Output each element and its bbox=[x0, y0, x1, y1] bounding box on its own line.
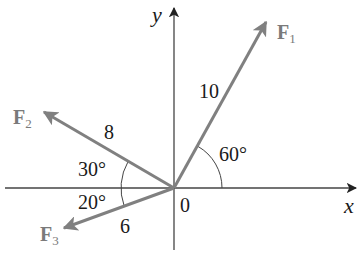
force-diagram: x y 0 F1 F2 F3 10 8 6 60° 30° 20° bbox=[0, 0, 363, 253]
axes: x y 0 bbox=[5, 2, 356, 250]
f3-label: F3 bbox=[40, 223, 59, 248]
force-labels: F1 F2 F3 bbox=[13, 21, 296, 248]
angle-arc-30-20 bbox=[121, 162, 128, 207]
f1-magnitude: 10 bbox=[199, 80, 219, 102]
angle-label-20: 20° bbox=[78, 191, 106, 213]
angle-label-60: 60° bbox=[219, 143, 247, 165]
f2-label: F2 bbox=[13, 106, 32, 131]
origin-label: 0 bbox=[180, 194, 190, 216]
y-axis-label: y bbox=[150, 2, 162, 27]
f1-label: F1 bbox=[277, 21, 296, 46]
x-axis-label: x bbox=[343, 193, 354, 218]
angle-labels: 60° 30° 20° bbox=[78, 143, 247, 213]
f3-magnitude: 6 bbox=[120, 215, 130, 237]
angle-label-30: 30° bbox=[78, 158, 106, 180]
f2-magnitude: 8 bbox=[104, 121, 114, 143]
angle-arcs bbox=[121, 146, 222, 206]
